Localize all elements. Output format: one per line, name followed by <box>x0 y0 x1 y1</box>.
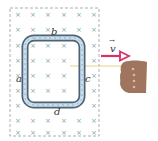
field-into-page-mark: × <box>15 26 21 34</box>
field-into-page-mark: × <box>45 11 51 19</box>
field-into-page-mark: × <box>91 57 97 65</box>
field-into-page-mark: × <box>61 72 67 80</box>
field-into-page-mark: × <box>45 57 51 65</box>
field-into-page-mark: × <box>45 42 51 50</box>
side-label-c: c <box>85 74 91 84</box>
field-into-page-mark: × <box>61 129 67 137</box>
field-into-page-mark: × <box>61 11 67 19</box>
field-into-page-mark: × <box>91 117 97 125</box>
diagram-canvas: ××××××××××××××××××××××××××××××××××××××××… <box>0 0 158 141</box>
field-into-page-mark: × <box>15 129 21 137</box>
pulling-hand <box>120 61 147 94</box>
field-into-page-mark: × <box>91 42 97 50</box>
field-into-page-mark: × <box>15 42 21 50</box>
field-into-page-mark: × <box>76 117 82 125</box>
field-into-page-mark: × <box>91 129 97 137</box>
field-into-page-mark: × <box>30 87 36 95</box>
side-label-d: d <box>54 107 60 117</box>
field-into-page-mark: × <box>15 102 21 110</box>
field-into-page-mark: × <box>30 57 36 65</box>
field-into-page-mark: × <box>30 11 36 19</box>
side-label-b: b <box>51 27 57 37</box>
field-into-page-mark: × <box>15 117 21 125</box>
field-into-page-mark: × <box>91 87 97 95</box>
field-into-page-mark: × <box>91 11 97 19</box>
velocity-label: v <box>110 44 116 54</box>
field-into-page-mark: × <box>45 117 51 125</box>
field-into-page-mark: × <box>30 129 36 137</box>
field-into-page-mark: × <box>91 26 97 34</box>
field-into-page-mark: × <box>91 72 97 80</box>
field-into-page-mark: × <box>91 102 97 110</box>
field-into-page-mark: × <box>45 87 51 95</box>
side-label-a: a <box>16 74 22 84</box>
field-into-page-mark: × <box>15 11 21 19</box>
field-into-page-mark: × <box>76 129 82 137</box>
field-into-page-mark: × <box>45 72 51 80</box>
field-into-page-mark: × <box>15 87 21 95</box>
field-into-page-mark: × <box>45 129 51 137</box>
field-into-page-mark: × <box>61 26 67 34</box>
field-into-page-mark: × <box>15 57 21 65</box>
field-into-page-mark: × <box>30 117 36 125</box>
field-into-page-mark: × <box>61 87 67 95</box>
field-into-page-mark: × <box>30 42 36 50</box>
field-into-page-mark: × <box>76 11 82 19</box>
field-into-page-mark: × <box>61 42 67 50</box>
field-into-page-mark: × <box>30 26 36 34</box>
field-into-page-mark: × <box>30 72 36 80</box>
field-into-page-mark: × <box>61 57 67 65</box>
field-into-page-mark: × <box>61 117 67 125</box>
field-into-page-mark: × <box>76 26 82 34</box>
